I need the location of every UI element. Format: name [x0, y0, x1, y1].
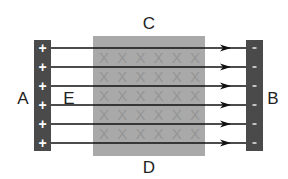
x-mark-icon: X [154, 68, 164, 85]
minus-charge-icon [253, 85, 257, 87]
x-mark-icon: X [172, 68, 182, 85]
x-mark-icon: X [117, 68, 127, 85]
x-mark-icon: X [190, 125, 200, 142]
x-mark-icon: X [172, 125, 182, 142]
x-mark-icon: X [190, 49, 200, 66]
label-top: C [143, 14, 155, 33]
x-mark-icon: X [154, 106, 164, 123]
minus-charge-icon [253, 104, 257, 106]
minus-charge-icon [253, 66, 257, 68]
x-mark-icon: X [117, 106, 127, 123]
plus-charge-icon: + [38, 135, 46, 151]
x-mark-icon: X [190, 106, 200, 123]
x-mark-icon: X [135, 125, 145, 142]
label-electric-field: E [63, 89, 74, 108]
x-mark-icon: X [190, 68, 200, 85]
plus-charge-icon: + [38, 59, 46, 75]
minus-charge-icon [253, 142, 257, 144]
x-mark-icon: X [117, 49, 127, 66]
x-mark-icon: X [154, 125, 164, 142]
minus-charge-icon [253, 123, 257, 125]
label-bottom: D [143, 158, 155, 177]
x-mark-icon: X [172, 49, 182, 66]
capacitor-field-diagram: XXXXXXXXXXXXXXXXXXXXXXXXXXXXXX ++++++ C … [0, 0, 288, 179]
plus-charge-icon: + [38, 116, 46, 132]
x-mark-icon: X [154, 87, 164, 104]
x-mark-icon: X [99, 68, 109, 85]
x-mark-icon: X [154, 49, 164, 66]
x-mark-icon: X [117, 125, 127, 142]
x-mark-icon: X [99, 49, 109, 66]
x-mark-icon: X [135, 49, 145, 66]
magnetic-field-region [93, 36, 205, 156]
label-right-plate: B [267, 89, 278, 108]
x-mark-icon: X [135, 87, 145, 104]
x-mark-icon: X [99, 106, 109, 123]
minus-charge-icon [253, 47, 257, 49]
x-mark-icon: X [117, 87, 127, 104]
x-mark-icon: X [135, 68, 145, 85]
plus-charge-icon: + [38, 40, 46, 56]
right-plate-negative [246, 40, 263, 151]
x-mark-icon: X [172, 87, 182, 104]
x-mark-icon: X [172, 106, 182, 123]
x-mark-icon: X [99, 87, 109, 104]
x-mark-icon: X [135, 106, 145, 123]
label-left-plate: A [17, 89, 29, 108]
x-mark-icon: X [99, 125, 109, 142]
x-mark-icon: X [190, 87, 200, 104]
plus-charge-icon: + [38, 97, 46, 113]
plus-charge-icon: + [38, 78, 46, 94]
